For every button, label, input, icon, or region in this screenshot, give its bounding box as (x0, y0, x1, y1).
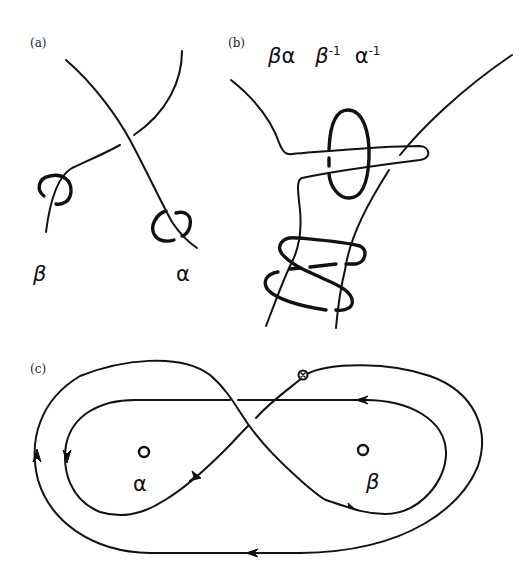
alpha-loop-upper-turn (299, 238, 365, 264)
commutator-word: βαβ-1α-1 (268, 44, 380, 68)
panel-label-a: (a) (30, 36, 47, 50)
word-letter-3: β (315, 44, 328, 68)
inner-top-left (65, 400, 248, 515)
word-exponent-3: -1 (329, 44, 341, 58)
band-right-strand-upper (400, 55, 512, 155)
word-exponent-4: -1 (368, 44, 380, 58)
panel-label-b: (b) (228, 36, 245, 50)
panel-c-diagram (33, 361, 482, 557)
strand-beta-upper (134, 51, 182, 135)
puncture-label-alpha: α (133, 472, 147, 496)
panel-b-diagram (231, 55, 512, 328)
puncture-beta (358, 445, 368, 455)
outer-loop (35, 361, 482, 553)
diagonal-to-basepoint (256, 378, 302, 418)
panel-label-c: (c) (30, 362, 46, 376)
strand-alpha (66, 60, 197, 248)
alpha-meridian-loop (153, 211, 191, 241)
beta-inverse-loop (329, 110, 369, 198)
figure-canvas (0, 0, 529, 586)
puncture-alpha (139, 447, 149, 457)
generator-label-beta: β (33, 262, 46, 286)
band-left-strand (231, 80, 428, 326)
panel-a-diagram (39, 51, 197, 248)
word-letter-2: α (281, 44, 295, 68)
alpha-loop-upper-turn-left (280, 238, 353, 311)
word-letter-1: β (268, 44, 281, 68)
generator-label-alpha: α (176, 262, 190, 286)
arrow-inner-lower-left (189, 471, 201, 481)
puncture-label-beta: β (366, 470, 379, 494)
strand-beta-lower (46, 145, 120, 232)
inner-top-right (238, 400, 446, 514)
word-letter-4: α (355, 44, 369, 68)
